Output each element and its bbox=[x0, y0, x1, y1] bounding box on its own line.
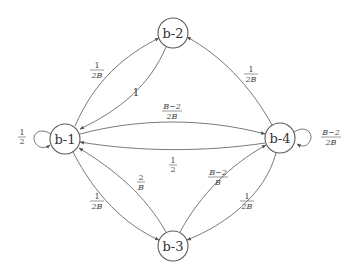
svg-text:2B: 2B bbox=[325, 138, 337, 147]
svg-text:2B: 2B bbox=[166, 112, 178, 121]
edge-b4-b4 bbox=[294, 129, 311, 146]
node-b3: b-3 bbox=[158, 231, 188, 261]
svg-text:2: 2 bbox=[138, 173, 143, 182]
svg-text:2B: 2B bbox=[91, 202, 103, 211]
diagram-canvas: b-1 b-2 b-3 b-4 1 2 1 2B 1 B−2 2B 1 2 1 bbox=[0, 0, 358, 276]
edge-b4-b3 bbox=[187, 153, 276, 240]
svg-text:2: 2 bbox=[19, 137, 24, 146]
svg-text:2B: 2B bbox=[91, 71, 103, 80]
svg-text:B−2: B−2 bbox=[162, 102, 181, 111]
node-b2: b-2 bbox=[158, 18, 188, 48]
edge-b1-b4 bbox=[80, 122, 265, 134]
svg-text:2B: 2B bbox=[241, 202, 253, 211]
edge-b1-b1 bbox=[34, 131, 51, 147]
edge-b1-b2 bbox=[75, 38, 159, 126]
svg-text:1: 1 bbox=[244, 192, 249, 201]
svg-text:1: 1 bbox=[94, 192, 99, 201]
svg-text:1: 1 bbox=[248, 65, 253, 74]
edge-b3-b4 bbox=[180, 145, 266, 232]
svg-text:B−2: B−2 bbox=[321, 128, 340, 137]
label-b1-b3: 1 2B bbox=[90, 192, 104, 211]
svg-text:1: 1 bbox=[170, 156, 175, 165]
edge-b4-b1 bbox=[80, 142, 265, 150]
svg-text:B: B bbox=[214, 178, 221, 187]
label-b3-b1: 2 B bbox=[137, 173, 145, 192]
edge-b2-b1 bbox=[80, 47, 166, 129]
svg-text:2B: 2B bbox=[245, 75, 257, 84]
state-graph: b-1 b-2 b-3 b-4 1 2 1 2B 1 B−2 2B 1 2 1 bbox=[0, 0, 358, 276]
node-b1-label: b-1 bbox=[55, 132, 76, 147]
node-b4-label: b-4 bbox=[270, 131, 291, 146]
node-b1: b-1 bbox=[50, 124, 80, 154]
label-b4-b3: 1 2B bbox=[240, 192, 254, 211]
edge-b3-b1 bbox=[79, 148, 166, 232]
label-b2-b1: 1 bbox=[133, 86, 140, 99]
label-b4-b2: 1 2B bbox=[244, 65, 258, 84]
label-b4-b4: B−2 2B bbox=[321, 128, 341, 147]
label-b4-b1: 1 2 bbox=[169, 156, 177, 174]
svg-text:1: 1 bbox=[19, 128, 24, 137]
svg-text:1: 1 bbox=[94, 61, 99, 70]
edge-b4-b2 bbox=[187, 37, 272, 125]
svg-text:2: 2 bbox=[170, 165, 175, 174]
node-b2-label: b-2 bbox=[163, 26, 184, 41]
label-b1-b2: 1 2B bbox=[90, 61, 104, 80]
node-b4: b-4 bbox=[265, 123, 295, 153]
node-b3-label: b-3 bbox=[163, 239, 184, 254]
edge-b1-b3 bbox=[73, 152, 159, 240]
svg-text:B−2: B−2 bbox=[208, 168, 227, 177]
label-b3-b4: B−2 B bbox=[208, 168, 228, 187]
label-b1-b4: B−2 2B bbox=[162, 102, 182, 121]
svg-text:B: B bbox=[137, 183, 144, 192]
label-b1-b1: 1 2 bbox=[18, 128, 26, 146]
